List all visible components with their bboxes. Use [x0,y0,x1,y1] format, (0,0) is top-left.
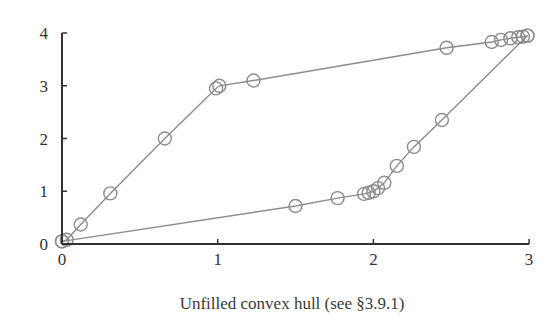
x-tick-label: 2 [369,250,378,269]
y-tick-label: 4 [40,24,49,43]
upper-hull-line [62,36,528,242]
y-tick-label: 0 [40,235,49,254]
convex-hull-chart: 012301234 [0,0,554,336]
hull-lines [62,36,528,242]
chart-caption: Unfilled convex hull (see §3.9.1) [0,294,554,314]
tick-labels: 012301234 [40,24,534,269]
y-tick-label: 1 [40,182,49,201]
y-tick-label: 2 [40,130,49,149]
x-tick-label: 3 [525,250,534,269]
x-tick-label: 1 [213,250,222,269]
lower-hull-line [62,36,528,242]
hull-markers [56,29,535,248]
y-tick-label: 3 [40,77,49,96]
x-tick-label: 0 [58,250,67,269]
